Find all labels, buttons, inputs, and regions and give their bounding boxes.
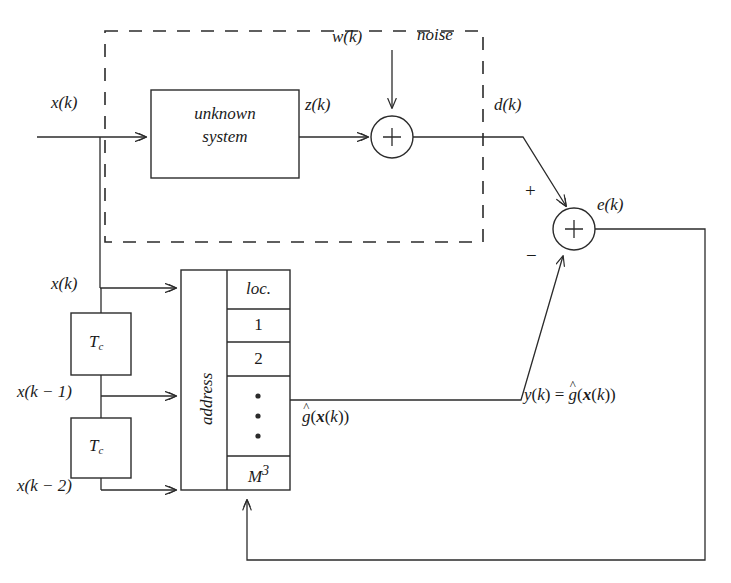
yk-k: k [537,385,545,404]
label-delay-2-subscript: c [98,444,103,456]
table-output-path [290,256,563,400]
table-ellipsis-dot-1 [255,393,260,398]
ghat-close-paren: ) [344,407,350,426]
label-wk: w(k) [332,28,362,45]
label-table-row-last: M3 [227,462,290,487]
label-address: address [197,373,217,425]
label-table-header-loc: loc. [227,279,290,299]
label-unknown-system-line1: unknown [151,103,299,126]
table-ellipsis-dot-3 [255,433,260,438]
label-xk-minus-1: x(k − 1) [17,383,72,400]
figure-canvas: x(k) unknown system z(k) w(k) noise d(k)… [0,0,731,583]
yk-equals: = [555,385,565,404]
label-unknown-system-line2: system [151,126,299,149]
yk-close-paren-2: ) [610,385,616,404]
table-ellipsis-dot-2 [255,413,260,418]
label-estimate-yk: y(k) = ^g(x(k)) [524,386,616,403]
desired-signal-path [413,137,566,206]
label-delay-block-2: Tc [89,437,103,456]
error-adder-minus-sign: − [526,245,537,267]
label-table-output-ghat: ^g(x(k)) [302,408,349,425]
label-table-row-2: 2 [227,349,290,369]
label-zk: z(k) [305,96,330,113]
diagram-svg [0,0,731,583]
yk-y: y [524,385,532,404]
label-ek: e(k) [597,196,623,213]
ghat-x: x [316,407,325,426]
ghat-hat-accent: ^ [303,400,309,413]
label-dk: d(k) [494,96,521,113]
label-input-xk-top: x(k) [51,94,77,111]
label-table-row-last-exponent: 3 [262,462,269,478]
label-table-row-1: 1 [227,315,290,335]
label-unknown-system: unknown system [151,103,299,149]
label-delay-1-subscript: c [98,340,103,352]
error-adder-plus-sign: + [525,180,536,202]
label-delay-block-1: Tc [89,333,103,352]
yk-hat-accent: ^ [570,378,576,391]
error-feedback-path [247,229,705,560]
label-xk-minus-2: x(k − 2) [17,477,72,494]
label-input-xk-table: x(k) [51,275,77,292]
ghat-k: k [330,407,338,426]
label-noise: noise [417,26,453,43]
yk-x: x [583,385,592,404]
